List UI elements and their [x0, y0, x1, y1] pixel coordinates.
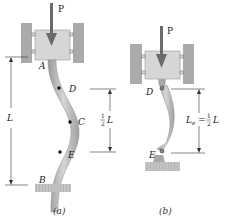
arrow-up-icon [197, 89, 201, 94]
point-d-dot [57, 86, 60, 89]
panel-a: P A D C E B L 1 [5, 3, 116, 216]
point-b-label: B [38, 175, 46, 185]
left-wall [130, 44, 142, 84]
eff-num: 1 [207, 112, 211, 119]
point-c-label: C [78, 117, 85, 127]
half-den: 2 [101, 120, 105, 127]
point-e-label: E [148, 150, 156, 160]
arrow-up-icon [9, 57, 13, 62]
column-buckling-figure: P A D C E B L 1 [0, 0, 229, 219]
eff-length-eq: = [198, 115, 206, 125]
point-e-dot [58, 150, 61, 153]
caption-a: (a) [53, 206, 66, 216]
right-wall [183, 44, 194, 84]
arrow-up-icon [108, 89, 112, 94]
eff-length-L: L [212, 115, 219, 125]
ground-support [145, 162, 180, 171]
load-label: P [58, 4, 64, 14]
buckled-column [157, 85, 174, 151]
eff-length-var: L [185, 115, 192, 125]
length-label: L [6, 113, 13, 123]
point-e-label: E [67, 150, 75, 160]
ground-support [35, 184, 71, 192]
top-pin-bracket [158, 79, 166, 86]
half-num: 1 [101, 112, 105, 119]
caption-b: (b) [159, 206, 172, 216]
arrow-down-icon [197, 148, 201, 153]
right-wall [73, 23, 84, 63]
eff-den: 2 [207, 120, 211, 127]
point-d-label: D [145, 87, 153, 97]
half-length-var: L [106, 115, 113, 125]
pin-d-icon [160, 86, 164, 90]
panel-b: P D E L e = 1 2 L (b) [130, 26, 219, 216]
pin-e-icon [160, 149, 164, 153]
arrow-down-icon [108, 147, 112, 152]
arrow-down-icon [9, 180, 13, 185]
point-d-label: D [68, 84, 76, 94]
point-a-label: A [38, 61, 46, 71]
point-c-dot [68, 120, 71, 123]
eff-length-sub: e [192, 119, 196, 126]
load-label: P [167, 26, 173, 36]
